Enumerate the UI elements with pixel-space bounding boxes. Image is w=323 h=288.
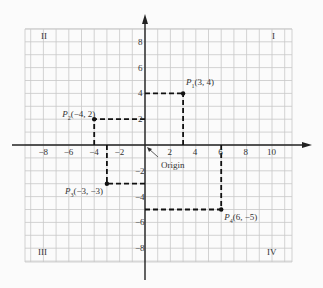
quadrant-II-label: II: [41, 32, 47, 41]
point-label-p2: P2(−4, 2): [62, 110, 95, 121]
y-tick-label: 6: [138, 64, 143, 73]
quadrant-IV-label: IV: [267, 248, 277, 257]
grid-svg: [0, 0, 323, 288]
coordinate-plane: II I III IV Origin −8−6−4−22468108642−2−…: [0, 0, 323, 288]
quadrant-I-label: I: [272, 32, 275, 41]
point-label-p4: P4(6, −5): [224, 213, 257, 224]
y-tick-label: −4: [135, 193, 145, 202]
y-tick-label: 4: [138, 89, 143, 98]
point-label-p3: P3(−3, −3): [65, 187, 103, 198]
x-tick-label: −8: [38, 148, 48, 157]
origin-label: Origin: [161, 161, 185, 170]
x-tick-label: −6: [64, 148, 74, 157]
x-tick-label: 8: [244, 148, 249, 157]
x-tick-label: 10: [267, 148, 276, 157]
point-label-p1: P1(3, 4): [186, 78, 214, 89]
x-tick-label: 2: [167, 148, 172, 157]
y-tick-label: 8: [138, 38, 143, 47]
y-tick-label: −8: [135, 244, 145, 253]
quadrant-III-label: III: [38, 248, 47, 257]
origin-arrow: [147, 147, 158, 157]
x-tick-label: 6: [218, 148, 223, 157]
x-tick-label: 4: [193, 148, 198, 157]
x-tick-label: −4: [89, 148, 99, 157]
y-tick-label: −2: [135, 167, 145, 176]
y-tick-label: −6: [135, 218, 145, 227]
y-tick-label: 2: [138, 115, 143, 124]
x-tick-label: −2: [115, 148, 125, 157]
